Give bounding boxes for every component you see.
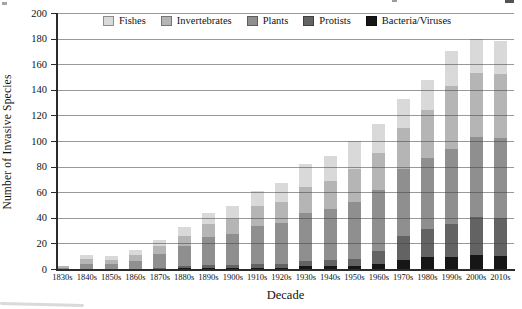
y-tick-160 [51,64,56,65]
legend-item-invertebrates: Invertebrates [161,15,232,26]
bar-segment-2010s-plants [494,138,507,217]
y-tick-label-40: 40 [7,213,47,223]
bar-segment-1980s-bacteria-viruses [421,257,434,269]
bar-segment-2010s-bacteria-viruses [494,256,507,269]
bar-segment-1910s-fishes [251,191,264,206]
bar-segment-1960s-protists [372,251,385,264]
bar-1990s [445,51,458,269]
legend-item-protists: Protists [303,15,351,26]
bar-segment-1980s-invertebrates [421,110,434,157]
bar-2000s [470,39,483,269]
bar-segment-1950s-fishes [348,141,361,169]
bar-segment-2000s-protists [470,217,483,255]
legend-label: Protists [319,15,351,26]
bar-segment-1940s-fishes [324,156,337,180]
y-tick-label-200: 200 [7,9,47,19]
legend-label: Invertebrates [177,15,232,26]
x-axis-line [56,269,515,271]
bar-segment-1870s-invertebrates [153,246,166,254]
bar-segment-1970s-bacteria-viruses [397,260,410,269]
bar-segment-1970s-invertebrates [397,128,410,169]
bar-1880s [178,227,191,269]
crop-artifact-top-left [2,2,7,5]
legend-swatch-icon [103,16,114,26]
bar-segment-1880s-plants [178,246,191,266]
legend: FishesInvertebratesPlantsProtistsBacteri… [103,15,451,26]
bar-segment-1910s-invertebrates [251,206,264,225]
y-tick-label-100: 100 [7,137,47,147]
y-tick-label-160: 160 [7,60,47,70]
bar-segment-1900s-invertebrates [226,219,239,234]
bar-segment-1930s-invertebrates [299,187,312,213]
bar-segment-2010s-fishes [494,41,507,74]
bar-2010s [494,41,507,269]
legend-label: Fishes [119,15,146,26]
bar-segment-1950s-invertebrates [348,169,361,202]
bar-segment-1980s-fishes [421,80,434,111]
bar-1840s [80,255,93,269]
y-tick-label-140: 140 [7,85,47,95]
y-tick-140 [51,90,56,91]
y-tick-20 [51,243,56,244]
bar-1900s [226,206,239,269]
bar-segment-1940s-invertebrates [324,181,337,209]
gridline-40 [57,218,514,219]
legend-item-fishes: Fishes [103,15,146,26]
y-tick-label-0: 0 [7,265,47,275]
gridline-60 [57,192,514,193]
bar-segment-1950s-plants [348,202,361,258]
bar-1950s [348,141,361,269]
y-tick-label-60: 60 [7,188,47,198]
bar-segment-1920s-invertebrates [275,202,288,222]
bar-segment-1900s-plants [226,234,239,265]
gridline-200 [57,13,514,14]
gridline-120 [57,115,514,116]
bar-segment-1890s-invertebrates [202,224,215,237]
gridline-140 [57,90,514,91]
y-axis-ticks: 020406080100120140160180200 [0,13,57,270]
y-tick-label-80: 80 [7,162,47,172]
legend-swatch-icon [366,16,377,26]
y-tick-60 [51,192,56,193]
gridline-100 [57,141,514,142]
y-tick-200 [51,13,56,14]
bar-segment-1990s-plants [445,149,458,225]
x-tick-label-2010s: 2010s [485,272,515,282]
bar-segment-1930s-plants [299,213,312,262]
crop-artifact-top-mid [392,0,397,2]
legend-swatch-icon [247,16,258,26]
crop-artifact-top-right [505,0,514,3]
y-axis-line [56,13,58,270]
bar-segment-2010s-protists [494,218,507,256]
y-tick-0 [51,269,56,270]
bar-segment-1970s-protists [397,236,410,260]
gridline-180 [57,39,514,40]
gridline-80 [57,167,514,168]
bar-1980s [421,80,434,269]
bar-1890s [202,213,215,269]
bar-1940s [324,156,337,269]
bar-segment-1990s-bacteria-viruses [445,257,458,269]
bar-segment-2000s-fishes [470,39,483,74]
bar-1930s [299,164,312,269]
legend-item-bacteria-viruses: Bacteria/Viruses [366,15,451,26]
legend-item-plants: Plants [247,15,289,26]
y-tick-120 [51,115,56,116]
bar-segment-1960s-plants [372,190,385,251]
bar-1960s [372,124,385,269]
bar-segment-1940s-plants [324,209,337,260]
bar-1850s [105,256,118,269]
y-tick-100 [51,141,56,142]
bar-segment-1890s-plants [202,237,215,265]
bar-segment-1990s-protists [445,224,458,257]
bar-segment-2000s-invertebrates [470,73,483,137]
y-tick-80 [51,167,56,168]
bar-segment-1910s-plants [251,226,264,264]
bar-segment-1970s-fishes [397,99,410,128]
bar-segment-1880s-fishes [178,227,191,236]
y-tick-label-180: 180 [7,34,47,44]
gridline-20 [57,243,514,244]
gridline-160 [57,64,514,65]
bar-segment-1880s-invertebrates [178,236,191,246]
x-axis-title: Decade [57,288,514,303]
